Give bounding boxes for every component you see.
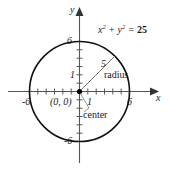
y-tick-label-1: 1 xyxy=(70,70,75,80)
origin-coordinate-label: (0, 0) xyxy=(50,97,72,107)
equation-equals: = xyxy=(125,24,137,35)
y-axis-label: y xyxy=(70,5,74,15)
y-axis-arrowhead xyxy=(76,7,84,16)
equation-rhs: 25 xyxy=(137,24,147,35)
circle-graph-figure: x2 + y2 = 25 x y -6 6 1 6 -6 1 (0, 0) 5 … xyxy=(0,0,169,173)
x-tick-label-1: 1 xyxy=(87,97,92,107)
radius-callout-label: radius xyxy=(104,70,128,80)
radius-value-label: 5 xyxy=(101,59,106,69)
y-tick-label-neg6: -6 xyxy=(64,136,72,146)
center-callout-label: center xyxy=(83,110,107,120)
origin-point xyxy=(77,89,82,94)
circle-equation: x2 + y2 = 25 xyxy=(98,24,147,35)
x-axis-label: x xyxy=(156,93,160,103)
x-tick-label-neg6: -6 xyxy=(22,97,30,107)
y-tick-label-6: 6 xyxy=(67,36,72,46)
equation-plus: + xyxy=(106,24,118,35)
x-tick-label-6: 6 xyxy=(127,97,132,107)
